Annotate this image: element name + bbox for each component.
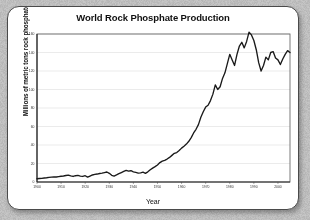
svg-text:60: 60 xyxy=(31,125,35,129)
plot-area: 0204060801001201401601900191019201930194… xyxy=(8,7,299,210)
svg-text:1900: 1900 xyxy=(33,185,41,189)
svg-text:1990: 1990 xyxy=(250,185,258,189)
svg-text:1910: 1910 xyxy=(57,185,65,189)
svg-text:80: 80 xyxy=(31,106,35,110)
svg-text:2000: 2000 xyxy=(274,185,282,189)
svg-text:1980: 1980 xyxy=(226,185,234,189)
svg-text:1940: 1940 xyxy=(130,185,138,189)
line-chart-svg: 0204060801001201401601900191019201930194… xyxy=(8,7,299,210)
chart-card: World Rock Phosphate Production Millions… xyxy=(7,6,299,210)
svg-text:1920: 1920 xyxy=(81,185,89,189)
svg-text:100: 100 xyxy=(29,88,35,92)
svg-text:1950: 1950 xyxy=(154,185,162,189)
x-axis-label: Year xyxy=(8,198,298,205)
svg-text:120: 120 xyxy=(29,69,35,73)
svg-text:0: 0 xyxy=(33,180,35,184)
svg-text:1960: 1960 xyxy=(178,185,186,189)
svg-text:1970: 1970 xyxy=(202,185,210,189)
svg-text:140: 140 xyxy=(29,51,35,55)
svg-text:40: 40 xyxy=(31,143,35,147)
svg-text:160: 160 xyxy=(29,32,35,36)
svg-text:20: 20 xyxy=(31,162,35,166)
svg-text:1930: 1930 xyxy=(106,185,114,189)
